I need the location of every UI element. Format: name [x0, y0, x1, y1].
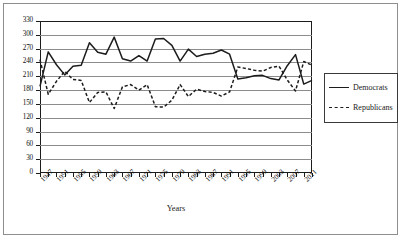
legend-item-democrats: Democrats: [329, 82, 388, 94]
x-axis-title: Years: [40, 204, 312, 214]
chart-figure: Number of Representatives 03060901201501…: [0, 0, 403, 241]
series-line-republicans: [40, 60, 312, 109]
y-tick-label: 180: [23, 86, 33, 93]
series-line-democrats: [40, 37, 312, 86]
chart-legend: Democrats Republicans: [324, 73, 398, 123]
y-tick-label: 300: [23, 31, 33, 38]
y-tick-label: 150: [23, 100, 33, 107]
y-tick-label: 60: [26, 141, 33, 148]
series-lines: [40, 21, 312, 173]
y-tick-label: 120: [23, 114, 33, 121]
plot-wrapper: 0306090120150180210240270300330 19471951…: [40, 21, 312, 173]
y-tick-label: 0: [30, 169, 33, 176]
legend-label-republicans: Republicans: [353, 103, 393, 113]
y-tick-label: 30: [26, 155, 33, 162]
legend-label-democrats: Democrats: [353, 83, 388, 93]
y-tick-label: 240: [23, 58, 33, 65]
solid-line-swatch: [329, 83, 349, 93]
y-tick-label: 90: [26, 128, 33, 135]
y-tick-label: 270: [23, 45, 33, 52]
legend-item-republicans: Republicans: [329, 102, 393, 114]
y-tick-label: 210: [23, 72, 33, 79]
y-tick-label: 330: [23, 17, 33, 24]
dashed-line-swatch: [329, 103, 349, 113]
